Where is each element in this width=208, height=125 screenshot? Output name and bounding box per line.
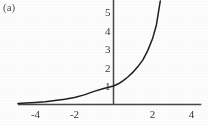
plot-canvas <box>0 0 208 125</box>
series-group <box>18 1 160 103</box>
y-tick-label: 1 <box>105 80 111 92</box>
y-tick-label: 4 <box>105 25 111 37</box>
y-tick-label: 2 <box>105 62 111 74</box>
y-tick-label: 5 <box>105 6 111 18</box>
figure-panel: (a) -4-22412345 <box>0 0 208 125</box>
x-tick-label: -4 <box>31 108 40 120</box>
x-tick-label: -2 <box>70 108 79 120</box>
y-tick-label: 3 <box>105 43 111 55</box>
exponential-curve <box>18 1 160 103</box>
x-tick-label: 2 <box>150 108 156 120</box>
x-tick-label: 4 <box>189 108 195 120</box>
